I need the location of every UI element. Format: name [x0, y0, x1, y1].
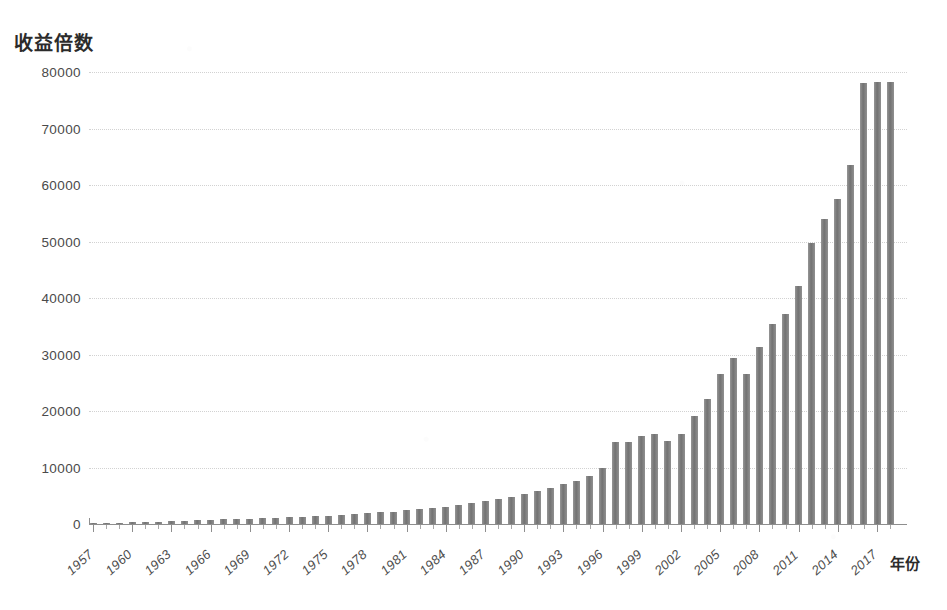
x-tick-minor	[616, 525, 617, 529]
x-tick-minor	[746, 525, 747, 529]
x-tick-major	[250, 525, 251, 532]
x-tick-label: 1957	[63, 547, 95, 578]
gridline	[89, 129, 907, 130]
x-tick-major	[289, 525, 290, 532]
bar	[860, 83, 867, 524]
x-tick-minor	[394, 525, 395, 529]
y-tick-label: 40000	[41, 291, 81, 306]
bar	[495, 499, 502, 524]
bar	[403, 510, 410, 524]
x-tick-minor	[276, 525, 277, 529]
x-tick-label: 1984	[416, 547, 448, 578]
bar	[743, 374, 750, 524]
x-tick-label: 2005	[691, 547, 723, 578]
x-axis-title: 年份	[890, 552, 920, 573]
bar	[442, 507, 449, 525]
x-tick-minor	[864, 525, 865, 529]
bar	[782, 314, 789, 524]
x-tick-minor	[459, 525, 460, 529]
bar	[599, 468, 606, 524]
x-tick-minor	[825, 525, 826, 529]
gridline	[89, 72, 907, 73]
x-tick-minor	[184, 525, 185, 529]
bar	[534, 491, 541, 524]
x-tick-major	[759, 525, 760, 532]
x-axis-tick-labels: 1957196019631966196919721975197819811984…	[0, 533, 947, 593]
x-tick-label: 1990	[495, 547, 527, 578]
bar	[547, 488, 554, 524]
bar	[625, 442, 632, 524]
x-tick-minor	[302, 525, 303, 529]
x-tick-minor	[354, 525, 355, 529]
x-tick-major	[603, 525, 604, 532]
x-tick-major	[563, 525, 564, 532]
x-tick-major	[485, 525, 486, 532]
bar	[638, 436, 645, 524]
bar	[468, 503, 475, 524]
bar	[573, 481, 580, 525]
x-tick-major	[211, 525, 212, 532]
x-tick-major	[132, 525, 133, 532]
x-tick-major	[877, 525, 878, 532]
x-tick-minor	[707, 525, 708, 529]
bar	[286, 517, 293, 524]
x-tick-major	[407, 525, 408, 532]
bar	[821, 219, 828, 524]
y-tick-label: 50000	[41, 234, 81, 249]
bar	[560, 484, 567, 524]
bar	[364, 513, 371, 524]
x-tick-minor	[590, 525, 591, 529]
x-tick-major	[524, 525, 525, 532]
bar	[429, 508, 436, 524]
x-tick-label: 1972	[259, 547, 291, 578]
x-tick-minor	[890, 525, 891, 529]
bar	[847, 165, 854, 524]
x-tick-minor	[224, 525, 225, 529]
x-tick-label: 1978	[338, 547, 370, 578]
x-tick-major	[171, 525, 172, 532]
x-tick-label: 2017	[848, 547, 880, 578]
x-tick-major	[367, 525, 368, 532]
x-tick-minor	[145, 525, 146, 529]
bar	[586, 476, 593, 524]
x-tick-minor	[119, 525, 120, 529]
bar-chart: 收益倍数 01000020000300004000050000600007000…	[0, 0, 947, 610]
y-tick-label: 60000	[41, 178, 81, 193]
bar	[717, 374, 724, 524]
y-tick-label: 80000	[41, 65, 81, 80]
bar	[795, 286, 802, 524]
x-tick-minor	[158, 525, 159, 529]
x-tick-minor	[576, 525, 577, 529]
x-tick-label: 1963	[142, 547, 174, 578]
x-tick-minor	[433, 525, 434, 529]
x-tick-label: 1996	[573, 547, 605, 578]
bar	[664, 441, 671, 524]
x-tick-label: 1969	[220, 547, 252, 578]
x-tick-minor	[511, 525, 512, 529]
bar	[678, 434, 685, 524]
x-tick-label: 1987	[455, 547, 487, 578]
plot-area	[89, 72, 907, 524]
bar	[756, 347, 763, 524]
x-tick-minor	[237, 525, 238, 529]
bar	[704, 399, 711, 524]
x-tick-minor	[694, 525, 695, 529]
bar	[691, 416, 698, 524]
y-tick-label: 20000	[41, 404, 81, 419]
x-tick-label: 2002	[652, 547, 684, 578]
bar	[338, 515, 345, 524]
y-tick-label: 70000	[41, 121, 81, 136]
x-tick-minor	[498, 525, 499, 529]
x-tick-major	[93, 525, 94, 532]
y-axis-title: 收益倍数	[14, 28, 94, 55]
bar	[390, 512, 397, 524]
x-tick-minor	[420, 525, 421, 529]
x-tick-label: 1966	[181, 547, 213, 578]
x-tick-minor	[655, 525, 656, 529]
x-tick-minor	[851, 525, 852, 529]
bar	[769, 324, 776, 524]
bar	[834, 199, 841, 524]
y-tick-label: 0	[73, 517, 81, 532]
x-tick-minor	[733, 525, 734, 529]
x-tick-label: 1975	[299, 547, 331, 578]
